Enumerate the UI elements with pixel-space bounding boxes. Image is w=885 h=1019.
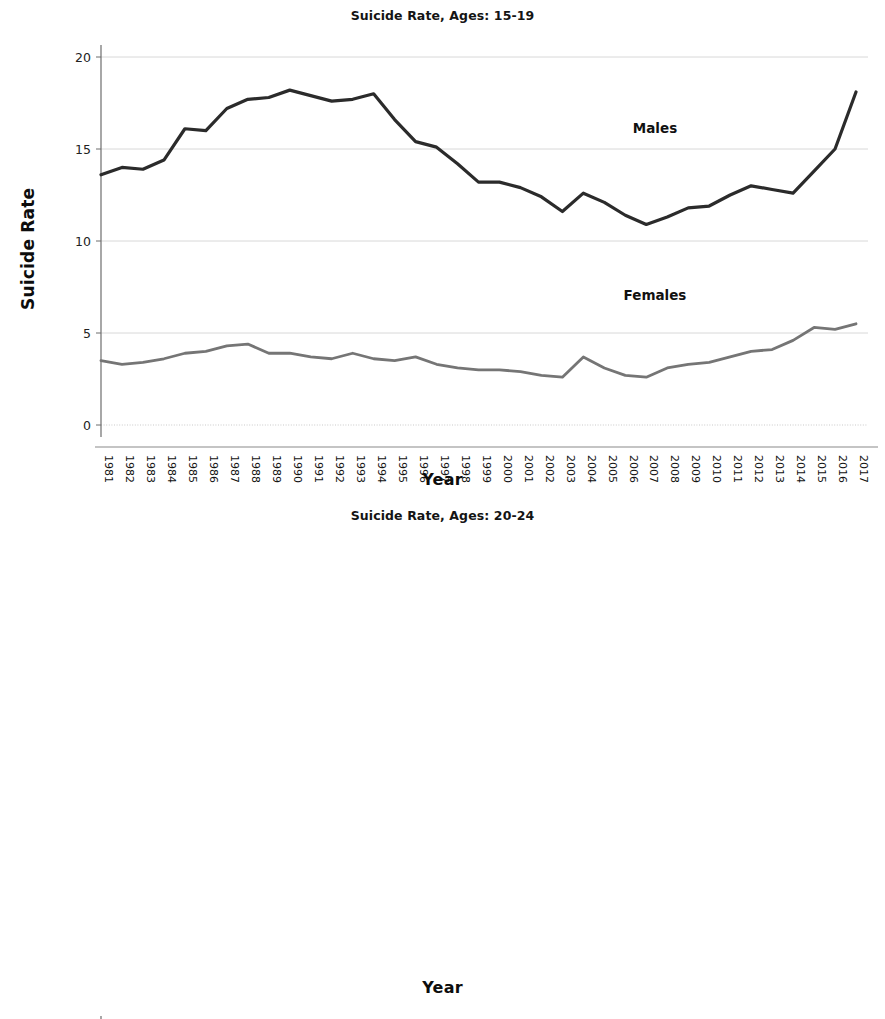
x-axis-label-bottom: Year <box>0 978 885 997</box>
plot-area-bottom: 0510152025301981198219831984198519861987… <box>0 500 885 1019</box>
series-line-females <box>101 324 856 377</box>
series-label-males: Males <box>633 120 677 136</box>
x-axis-label-top: Year <box>0 470 885 489</box>
plot-area-top: 0510152019811982198319841985198619871988… <box>0 0 885 500</box>
y-tick-label: 10 <box>75 234 91 249</box>
chart-panel-ages-20-24: Suicide Rate, Ages: 20-24 Suicide Rate 0… <box>0 500 885 1019</box>
chart-panel-ages-15-19: Suicide Rate, Ages: 15-19 Suicide Rate 0… <box>0 0 885 500</box>
y-tick-label: 0 <box>83 418 91 433</box>
y-tick-label: 15 <box>75 142 91 157</box>
y-tick-label: 5 <box>83 326 91 341</box>
y-tick-label: 20 <box>75 50 91 65</box>
series-line-males <box>101 90 856 224</box>
series-label-females: Females <box>624 287 687 303</box>
